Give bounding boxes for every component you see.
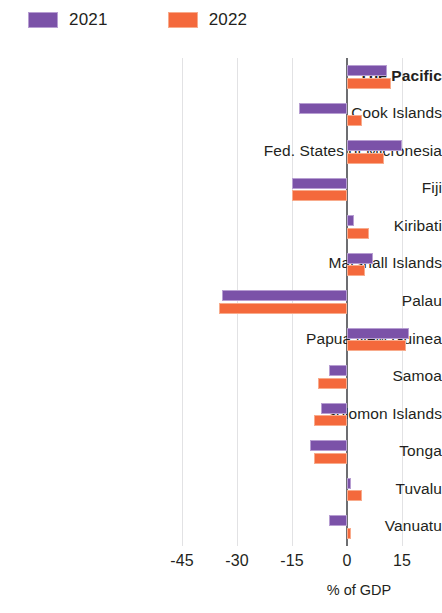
x-tick-label: -45 — [170, 552, 194, 570]
x-axis: % of GDP -45-30-1501530 — [0, 546, 442, 613]
x-tick-label: 15 — [393, 552, 411, 570]
x-tick-label: 0 — [342, 552, 351, 570]
bar-2022 — [347, 528, 351, 539]
legend-item-2022: 2022 — [168, 10, 248, 30]
bar-2021 — [321, 403, 347, 414]
legend-item-2021: 2021 — [28, 10, 108, 30]
chart-legend: 2021 2022 — [28, 10, 247, 30]
bar-2022 — [314, 453, 347, 464]
bar-2022 — [347, 228, 369, 239]
bar-2022 — [347, 153, 384, 164]
bar-2022 — [347, 490, 362, 501]
x-tick-label: -30 — [225, 552, 249, 570]
bar-2022 — [347, 265, 365, 276]
legend-label-2022: 2022 — [209, 10, 248, 30]
x-tick-label: -15 — [280, 552, 304, 570]
legend-swatch-2021 — [28, 12, 58, 28]
bar-2021 — [347, 215, 354, 226]
bar-2022 — [347, 115, 362, 126]
bar-2022 — [347, 340, 406, 351]
bar-2022 — [219, 303, 347, 314]
bar-2021 — [347, 328, 409, 339]
bar-2021 — [222, 290, 347, 301]
bar-2021 — [292, 178, 347, 189]
bar-2022 — [347, 78, 391, 89]
bar-2022 — [318, 378, 347, 389]
x-axis-title: % of GDP — [327, 582, 391, 598]
bar-2021 — [347, 65, 387, 76]
plot-area: The PacificCook IslandsFed. States of Mi… — [0, 58, 442, 546]
legend-swatch-2022 — [168, 12, 198, 28]
legend-label-2021: 2021 — [69, 10, 108, 30]
bar-2021 — [310, 440, 347, 451]
bar-chart: 2021 2022 The PacificCook IslandsFed. St… — [0, 0, 442, 613]
bar-2021 — [329, 515, 347, 526]
bar-2021 — [329, 365, 347, 376]
bar-2021 — [347, 478, 351, 489]
bar-2021 — [347, 140, 402, 151]
bar-2021 — [347, 253, 373, 264]
bars — [0, 58, 442, 546]
bar-2022 — [292, 190, 347, 201]
bar-2021 — [299, 103, 347, 114]
bar-2022 — [314, 415, 347, 426]
